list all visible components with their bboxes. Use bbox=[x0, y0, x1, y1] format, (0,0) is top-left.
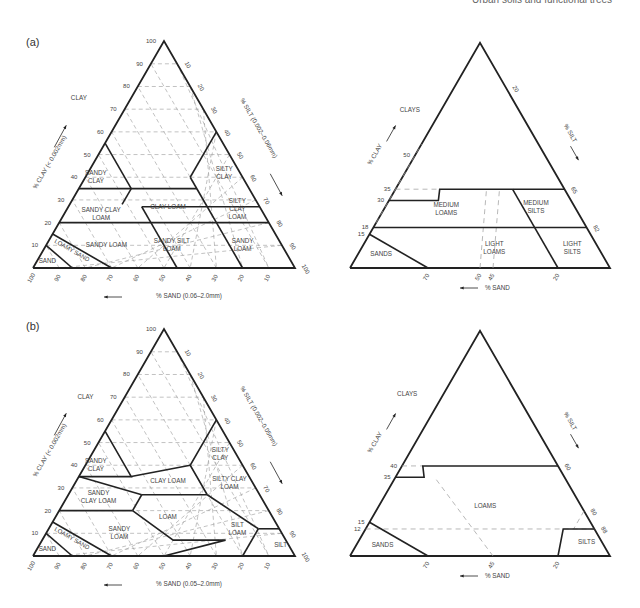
silt-axis-title: % SILT (0.002–0.06mm) bbox=[238, 97, 279, 160]
class-label: SILT bbox=[274, 541, 287, 548]
class-label: LOAM bbox=[228, 213, 246, 220]
class-label: LIGHT bbox=[485, 240, 504, 247]
silt-tick: 20 bbox=[511, 84, 520, 93]
sand-tick: 100 bbox=[26, 560, 37, 572]
sand-axis-title: % SAND (0.06–2.0mm) bbox=[156, 292, 222, 300]
class-label: SANDS bbox=[372, 541, 394, 548]
silt-tick: 100 bbox=[301, 551, 312, 563]
class-label: SILTS bbox=[527, 207, 544, 214]
sand-tick: 45 bbox=[487, 560, 496, 569]
class-label: SANDY CLAY bbox=[81, 206, 121, 213]
clay-tick: 70 bbox=[110, 394, 117, 400]
class-label: LOAM bbox=[228, 529, 246, 536]
sand-tick: 20 bbox=[237, 273, 246, 282]
clay-axis-title: % CLAY bbox=[366, 430, 384, 454]
clay-tick: 40 bbox=[71, 462, 78, 468]
class-label: MEDIUM bbox=[523, 199, 549, 206]
class-label: CLAY LOAM bbox=[150, 203, 185, 210]
silt-tick: 90 bbox=[288, 530, 297, 539]
guide-line bbox=[493, 189, 500, 268]
class-label: LOAM bbox=[221, 483, 239, 490]
silt-tick: 70 bbox=[262, 197, 271, 206]
class-label: LOAM bbox=[159, 513, 177, 520]
class-label: LOAM bbox=[234, 245, 252, 252]
clay-tick: 100 bbox=[146, 38, 157, 44]
silt-axis-arrow bbox=[270, 462, 282, 484]
sand-tick: 80 bbox=[79, 561, 88, 570]
silt-tick: 60 bbox=[249, 174, 258, 183]
clay-tick: 10 bbox=[31, 242, 38, 248]
silt-axis-title: % SILT (0.002–0.05mm) bbox=[238, 385, 279, 448]
boundary-line bbox=[396, 466, 559, 477]
clay-tick: 40 bbox=[390, 463, 397, 469]
boundary-line bbox=[53, 522, 112, 556]
class-label: SANDY bbox=[85, 169, 107, 176]
guide-line bbox=[435, 477, 494, 556]
class-label: CLAY bbox=[216, 173, 233, 180]
clay-tick: 90 bbox=[136, 61, 143, 67]
sand-axis-arrow-head bbox=[460, 574, 464, 577]
silt-tick: 70 bbox=[262, 485, 271, 494]
boundary-line bbox=[370, 522, 429, 556]
sand-tick: 50 bbox=[158, 273, 167, 282]
sand-tick: 70 bbox=[106, 273, 115, 282]
sand-axis-arrow-head bbox=[104, 295, 108, 298]
class-label: LOAMS bbox=[474, 502, 496, 509]
sand-tick: 30 bbox=[210, 561, 219, 570]
boundary-line bbox=[190, 177, 207, 206]
clay-tick: 18 bbox=[362, 224, 369, 230]
clay-tick: 35 bbox=[384, 474, 391, 480]
class-label: CLAY bbox=[212, 454, 229, 461]
sand-tick: 40 bbox=[184, 273, 193, 282]
class-label: CLAY LOAM bbox=[81, 497, 116, 504]
sand-tick: 90 bbox=[53, 561, 62, 570]
silt-tick: 20 bbox=[197, 83, 206, 92]
clay-tick: 100 bbox=[146, 326, 157, 332]
sand-tick: 70 bbox=[422, 272, 431, 281]
clay-tick: 15 bbox=[358, 519, 365, 525]
sand-tick: 70 bbox=[422, 560, 431, 569]
sand-tick: 50 bbox=[474, 272, 483, 281]
silt-tick: 20 bbox=[197, 371, 206, 380]
silt-tick: 80 bbox=[275, 219, 284, 228]
clay-tick: 30 bbox=[377, 197, 384, 203]
silt-tick: 50 bbox=[236, 151, 245, 160]
silt-tick: 60 bbox=[249, 462, 258, 471]
class-label: CLAY bbox=[88, 465, 105, 472]
class-label: CLAY LOAM bbox=[150, 477, 185, 484]
sand-tick: 10 bbox=[263, 273, 272, 282]
clay-tick: 80 bbox=[123, 83, 130, 89]
sand-tick: 100 bbox=[26, 272, 37, 284]
clay-tick: 60 bbox=[97, 129, 104, 135]
class-label: CLAY bbox=[229, 205, 246, 212]
class-label: SILTY bbox=[212, 446, 230, 453]
class-label: LOAMY SAND bbox=[54, 526, 92, 551]
silt-tick: 50 bbox=[236, 439, 245, 448]
silt-tick: 80 bbox=[589, 508, 598, 517]
clay-tick: 70 bbox=[110, 106, 117, 112]
class-label: SAND bbox=[39, 257, 57, 264]
sand-tick: 20 bbox=[237, 561, 246, 570]
silt-tick: 88 bbox=[600, 526, 609, 535]
boundary-line bbox=[133, 495, 142, 511]
clay-tick: 50 bbox=[403, 152, 410, 158]
sand-tick: 50 bbox=[158, 561, 167, 570]
sand-tick: 70 bbox=[106, 561, 115, 570]
sand-tick: 20 bbox=[552, 560, 561, 569]
silt-tick: 65 bbox=[570, 186, 579, 195]
sand-tick: 60 bbox=[132, 273, 141, 282]
boundary-line bbox=[79, 431, 131, 476]
class-label: SILTS bbox=[564, 248, 581, 255]
clay-tick: 12 bbox=[354, 526, 361, 532]
class-label: CLAY bbox=[88, 177, 105, 184]
class-label: SANDY bbox=[232, 237, 254, 244]
guide-line bbox=[574, 511, 584, 529]
silt-tick: 40 bbox=[223, 416, 232, 425]
silt-axis-title: % SILT bbox=[563, 410, 579, 431]
clay-tick: 20 bbox=[45, 508, 52, 514]
silt-tick: 60 bbox=[563, 463, 572, 472]
class-label: MEDIUM bbox=[433, 201, 459, 208]
triangle-outline bbox=[350, 43, 610, 268]
sand-tick: 20 bbox=[552, 272, 561, 281]
class-label: SILTY bbox=[229, 197, 247, 204]
